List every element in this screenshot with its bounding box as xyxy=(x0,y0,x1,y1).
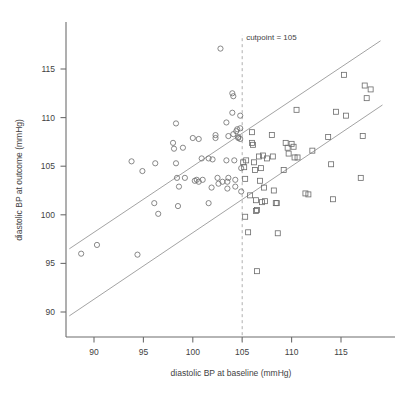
data-point-square xyxy=(295,155,300,160)
data-point-square xyxy=(258,166,263,171)
data-point-circle xyxy=(156,211,161,216)
data-point-square xyxy=(326,135,331,140)
data-point-square xyxy=(244,158,249,163)
data-point-square xyxy=(334,109,339,114)
reference-lines xyxy=(69,35,382,341)
data-point-circle xyxy=(230,91,235,96)
upper-agreement-line xyxy=(69,41,380,249)
y-tick-label: 90 xyxy=(46,307,56,317)
data-point-square xyxy=(329,162,334,167)
x-axis-ticks: 9095100105110115 xyxy=(89,337,348,357)
data-point-square xyxy=(255,269,260,274)
data-point-square xyxy=(331,197,336,202)
x-tick-label: 90 xyxy=(89,347,99,357)
y-tick-label: 110 xyxy=(41,113,55,123)
data-point-circle xyxy=(233,184,238,189)
data-point-circle xyxy=(231,132,236,137)
data-point-circle xyxy=(135,252,140,257)
data-point-square xyxy=(269,133,274,138)
scatter-plot-figure: 9095100105110115 9095100105110115 cutpoi… xyxy=(0,0,405,396)
data-point-circle xyxy=(153,161,158,166)
data-series-circles xyxy=(79,46,244,257)
data-point-square xyxy=(362,83,367,88)
data-point-square xyxy=(253,168,258,173)
x-tick-label: 100 xyxy=(186,347,200,357)
data-point-circle xyxy=(180,145,185,150)
x-tick-label: 110 xyxy=(285,347,299,357)
data-point-circle xyxy=(173,161,178,166)
x-tick-label: 105 xyxy=(235,347,249,357)
x-tick-label: 115 xyxy=(334,347,348,357)
data-point-square xyxy=(343,113,348,118)
data-point-circle xyxy=(170,140,175,145)
data-point-circle xyxy=(238,113,243,118)
data-point-square xyxy=(341,72,346,77)
data-point-circle xyxy=(206,201,211,206)
y-tick-label: 105 xyxy=(41,161,55,171)
data-point-circle xyxy=(176,184,181,189)
data-point-square xyxy=(360,134,365,139)
data-point-square xyxy=(270,154,275,159)
data-point-circle xyxy=(215,175,220,180)
chart-annotations: cutpoint = 105 xyxy=(246,33,297,42)
data-point-square xyxy=(243,214,248,219)
x-tick-label: 95 xyxy=(139,347,149,357)
data-point-square xyxy=(286,151,291,156)
data-point-circle xyxy=(173,121,178,126)
data-point-circle xyxy=(224,120,229,125)
data-point-circle xyxy=(225,186,230,191)
data-point-circle xyxy=(171,146,176,151)
data-point-square xyxy=(292,155,297,160)
y-tick-label: 115 xyxy=(41,64,55,74)
data-point-circle xyxy=(190,135,195,140)
data-point-circle xyxy=(239,189,244,194)
y-axis-title: diastolic BP at outcome (mmHg) xyxy=(14,119,24,241)
data-point-circle xyxy=(94,242,99,247)
data-point-square xyxy=(283,140,288,145)
data-point-circle xyxy=(231,94,236,99)
y-tick-label: 95 xyxy=(46,258,56,268)
data-point-square xyxy=(254,198,259,203)
data-point-square xyxy=(252,160,257,165)
data-point-square xyxy=(294,107,299,112)
data-point-square xyxy=(275,231,280,236)
data-point-circle xyxy=(218,46,223,51)
y-axis-ticks: 9095100105110115 xyxy=(41,64,66,317)
data-series-squares xyxy=(241,72,373,273)
data-point-circle xyxy=(235,127,240,132)
data-point-square xyxy=(271,188,276,193)
data-point-square xyxy=(368,87,373,92)
x-axis-title: diastolic BP at baseline (mmHg) xyxy=(171,368,292,378)
data-point-circle xyxy=(129,159,134,164)
data-point-circle xyxy=(175,203,180,208)
data-point-square xyxy=(246,230,251,235)
data-point-square xyxy=(364,96,369,101)
chart-canvas: 9095100105110115 9095100105110115 cutpoi… xyxy=(0,0,405,396)
data-point-circle xyxy=(209,185,214,190)
data-point-square xyxy=(358,175,363,180)
y-tick-label: 100 xyxy=(41,210,55,220)
data-point-circle xyxy=(233,177,238,182)
data-point-circle xyxy=(224,158,229,163)
data-point-circle xyxy=(196,136,201,141)
data-point-square xyxy=(250,130,255,135)
data-point-circle xyxy=(152,201,157,206)
data-point-square xyxy=(257,178,262,183)
data-point-square xyxy=(243,176,248,181)
data-point-square xyxy=(241,160,246,165)
data-point-circle xyxy=(182,175,187,180)
data-point-circle xyxy=(226,133,231,138)
data-point-circle xyxy=(140,168,145,173)
data-point-circle xyxy=(230,110,235,115)
cutpoint-label: cutpoint = 105 xyxy=(246,33,297,42)
data-point-circle xyxy=(79,251,84,256)
data-point-circle xyxy=(232,158,237,163)
data-point-square xyxy=(291,144,296,149)
